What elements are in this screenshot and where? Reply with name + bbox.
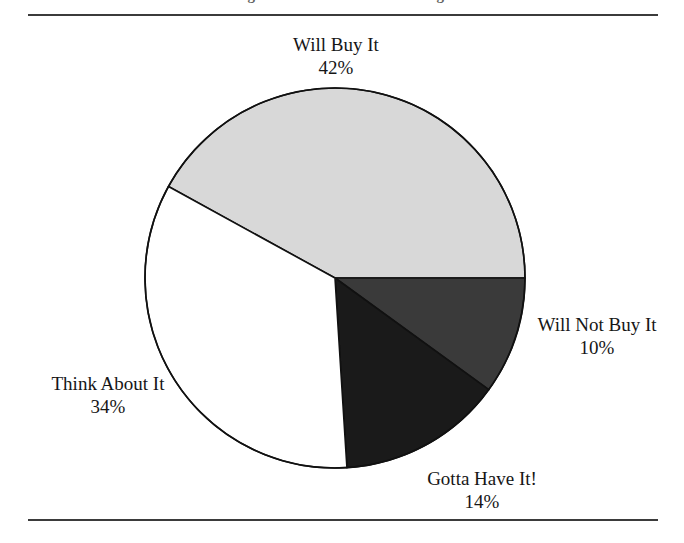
slice-label-gotta-have-it: Gotta Have It! 14% <box>382 467 582 513</box>
slice-label-value: 34% <box>18 395 198 418</box>
pie-slice-group <box>145 88 525 468</box>
slice-label-will-not-buy-it: Will Not Buy It 10% <box>512 313 682 359</box>
slice-label-value: 42% <box>236 56 436 79</box>
slice-label-value: 14% <box>382 490 582 513</box>
slice-label-name: Will Not Buy It <box>512 313 682 336</box>
slice-label-will-buy-it: Will Buy It 42% <box>236 33 436 79</box>
slice-label-name: Gotta Have It! <box>382 467 582 490</box>
slice-label-name: Think About It <box>18 372 198 395</box>
pie-chart <box>0 0 684 543</box>
slice-label-value: 10% <box>512 336 682 359</box>
figure-container: Figure 1. Purchase Intent Ratings Will B… <box>0 0 684 543</box>
rule-bottom <box>28 519 658 521</box>
pie-chart-svg <box>0 0 684 543</box>
slice-label-name: Will Buy It <box>236 33 436 56</box>
slice-label-think-about-it: Think About It 34% <box>18 372 198 418</box>
